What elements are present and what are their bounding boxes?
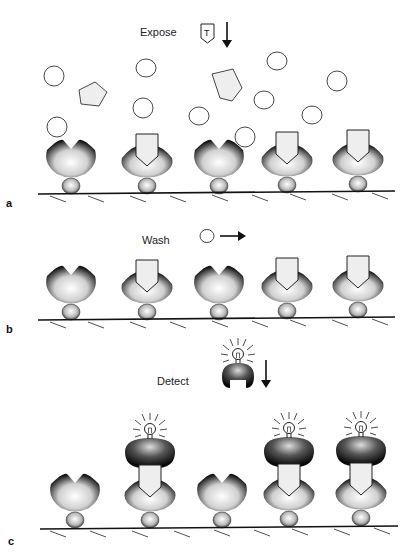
assay-diagram: Expose T (0, 0, 415, 557)
receptor-1 (46, 266, 96, 320)
receptor-4-bound (261, 132, 312, 193)
panel-b: Wash b (6, 230, 395, 336)
receptor-3 (194, 140, 244, 194)
surface-hatch (50, 319, 388, 328)
receptor-1 (46, 140, 96, 194)
step-label-expose: Expose (140, 26, 177, 38)
surface-hatch (50, 193, 388, 202)
panel-label-b: b (6, 323, 13, 335)
step-label-wash: Wash (142, 234, 170, 246)
panel-label-a: a (6, 197, 13, 209)
receptor-3 (194, 266, 244, 320)
receptor-4-bound (261, 258, 312, 319)
receptor-2-bound (121, 134, 172, 194)
free-targets (79, 69, 242, 106)
svg-text:T: T (204, 28, 210, 38)
receptor-3 (197, 474, 247, 528)
panel-c: Detect (8, 338, 398, 547)
down-arrow-icon (222, 22, 232, 48)
receptor-2-bound (121, 260, 172, 320)
receptor-1 (50, 474, 100, 528)
receptor-2-detected (124, 413, 175, 528)
step-label-detect: Detect (157, 375, 189, 387)
panel-a: Expose T (6, 22, 395, 209)
unbound-molecule-icon (200, 230, 214, 243)
target-molecule-icon: T (201, 24, 214, 43)
receptor-5-detected (335, 411, 386, 526)
panel-label-c: c (8, 535, 14, 547)
receptor-5-bound (332, 130, 383, 192)
right-arrow-icon (220, 231, 246, 241)
surface-hatch (50, 528, 390, 537)
down-arrow-icon (261, 360, 271, 388)
receptor-5-bound (332, 256, 383, 318)
receptor-4-detected (263, 412, 314, 527)
detection-reagent-icon (221, 338, 255, 388)
